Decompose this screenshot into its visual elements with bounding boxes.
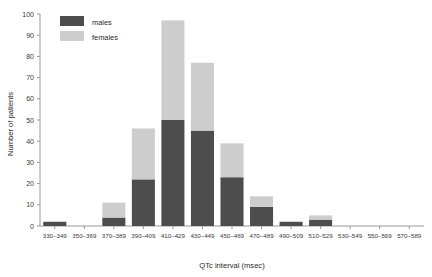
bar-segment-females [102, 203, 125, 218]
bar-470-489 [250, 196, 273, 226]
y-tick-label: 50 [26, 117, 34, 124]
y-axis: 0102030405060708090100 [22, 11, 40, 230]
x-tick-label: 450–469 [220, 232, 245, 239]
y-tick-label: 20 [26, 180, 34, 187]
x-axis: 330–349350–369370–389390–409410–429430–4… [40, 226, 424, 239]
y-tick-label: 60 [26, 95, 34, 102]
y-tick-label: 90 [26, 32, 34, 39]
bar-370-389 [102, 203, 125, 226]
x-tick-label: 430–449 [190, 232, 215, 239]
bar-350-369 [73, 225, 96, 226]
legend-swatch-males [60, 16, 84, 26]
x-tick-label: 490–509 [279, 232, 304, 239]
x-tick-label: 390–409 [131, 232, 156, 239]
legend-label-females: females [92, 33, 118, 42]
bar-segment-females [220, 143, 243, 177]
bar-segment-females [250, 196, 273, 207]
x-tick-label: 410–429 [161, 232, 186, 239]
bar-430-449 [191, 63, 214, 226]
y-tick-label: 30 [26, 159, 34, 166]
chart-container: 0102030405060708090100 330–349350–369370… [0, 0, 432, 277]
y-tick-label: 10 [26, 201, 34, 208]
bar-segment-empty [339, 225, 362, 226]
y-tick-label: 100 [22, 11, 34, 18]
y-tick-label: 80 [26, 53, 34, 60]
bar-410-429 [161, 20, 184, 226]
x-tick-label: 530–549 [338, 232, 363, 239]
bar-segment-empty [368, 225, 391, 226]
y-tick-label: 70 [26, 74, 34, 81]
x-tick-label: 550–569 [368, 232, 393, 239]
bar-segment-males [191, 131, 214, 226]
bar-segment-females [132, 128, 155, 179]
x-tick-label: 470–489 [249, 232, 274, 239]
bar-segment-males [309, 220, 332, 226]
bar-segment-females [309, 215, 332, 219]
x-tick-label: 330–349 [43, 232, 68, 239]
chart-legend: malesfemales [60, 16, 118, 42]
bar-segment-empty [73, 225, 96, 226]
stacked-bar-chart: 0102030405060708090100 330–349350–369370… [0, 0, 432, 277]
x-tick-label: 370–389 [102, 232, 127, 239]
bar-segment-females [161, 20, 184, 120]
y-tick-label: 0 [30, 223, 34, 230]
bar-330-349 [43, 222, 66, 226]
bar-450-469 [220, 143, 243, 226]
bar-segment-females [191, 63, 214, 131]
bars-group [43, 20, 421, 226]
bar-490-509 [280, 222, 303, 226]
bar-390-409 [132, 128, 155, 226]
x-tick-label: 510–529 [309, 232, 334, 239]
bar-segment-males [102, 218, 125, 226]
bar-segment-males [43, 222, 66, 226]
x-tick-label: 350–369 [72, 232, 97, 239]
bar-segment-males [132, 179, 155, 226]
x-axis-title: QTc interval (msec) [199, 261, 265, 270]
y-axis-title: Number of patients [6, 92, 15, 156]
x-tick-label: 570–589 [397, 232, 422, 239]
bar-550-569 [368, 225, 391, 226]
bar-570-589 [398, 225, 421, 226]
legend-label-males: males [92, 18, 112, 27]
bar-segment-males [220, 177, 243, 226]
y-tick-label: 40 [26, 138, 34, 145]
legend-swatch-females [60, 31, 84, 41]
bar-segment-males [250, 207, 273, 226]
bar-530-549 [339, 225, 362, 226]
bar-segment-males [161, 120, 184, 226]
bar-segment-males [280, 222, 303, 226]
bar-segment-empty [398, 225, 421, 226]
bar-510-529 [309, 215, 332, 226]
